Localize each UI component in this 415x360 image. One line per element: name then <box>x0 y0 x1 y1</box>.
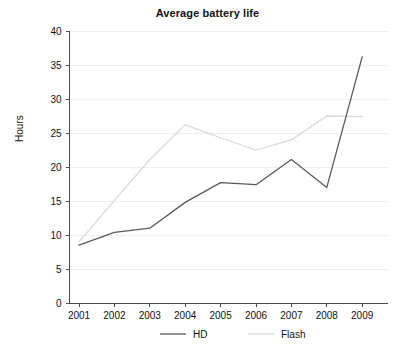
x-tick-label: 2007 <box>280 310 303 321</box>
x-tick-label: 2006 <box>245 310 268 321</box>
y-tick-label: 5 <box>56 264 62 275</box>
legend-label-hd: HD <box>193 329 207 340</box>
x-tick-label: 2005 <box>209 310 232 321</box>
chart-legend: HDFlash <box>160 329 305 340</box>
x-tick-label: 2009 <box>351 310 374 321</box>
y-axis-ticks-group: 0510152025303540 <box>50 26 69 309</box>
chart-container: Average battery life Hours 0510152025303… <box>0 0 415 360</box>
legend-label-flash: Flash <box>281 329 305 340</box>
x-tick-label: 2001 <box>68 310 91 321</box>
y-tick-label: 40 <box>50 26 62 37</box>
y-tick-label: 30 <box>50 94 62 105</box>
y-tick-label: 25 <box>50 128 62 139</box>
series-line-flash <box>79 116 362 242</box>
y-tick-label: 0 <box>56 298 62 309</box>
y-tick-label: 35 <box>50 60 62 71</box>
x-tick-label: 2003 <box>139 310 162 321</box>
y-tick-label: 15 <box>50 196 62 207</box>
y-tick-label: 10 <box>50 230 62 241</box>
data-series-group <box>79 57 362 245</box>
y-tick-label: 20 <box>50 162 62 173</box>
gridlines-group <box>70 31 389 269</box>
series-line-hd <box>79 57 362 245</box>
chart-plot-area: 0510152025303540 20012002200320042005200… <box>0 0 415 360</box>
x-tick-label: 2002 <box>103 310 126 321</box>
x-axis-ticks-group: 200120022003200420052006200720082009 <box>68 303 374 321</box>
x-tick-label: 2004 <box>174 310 197 321</box>
x-tick-label: 2008 <box>316 310 339 321</box>
